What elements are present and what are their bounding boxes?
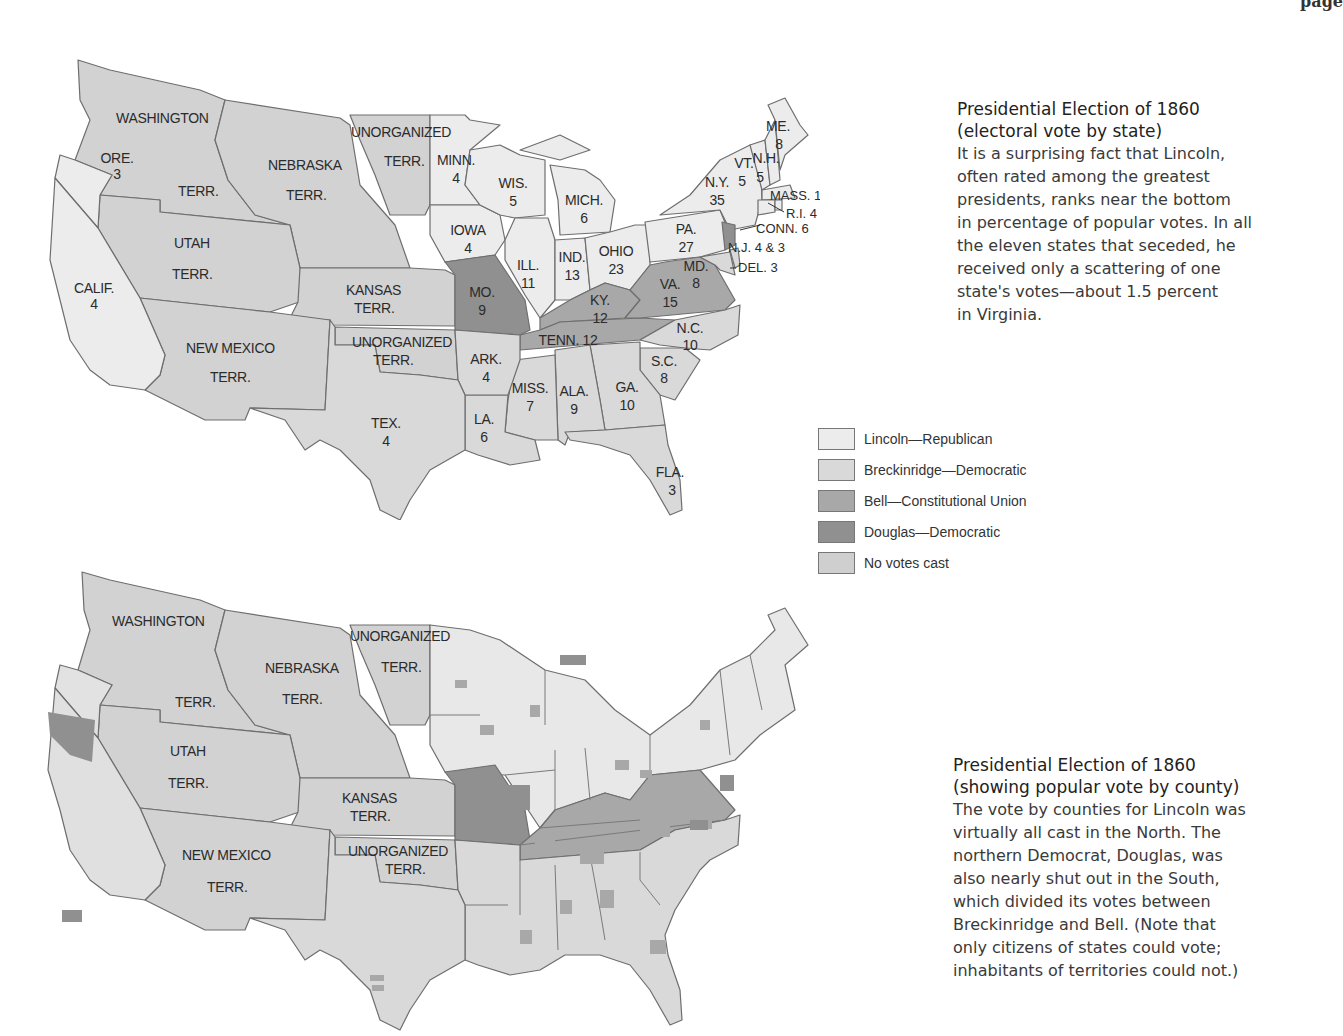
caption-subtitle: (showing popular vote by county): [953, 776, 1343, 798]
label-new-mexico: NEW MEXICO: [182, 847, 271, 863]
county-vote-map: WASHINGTON TERR. NEBRASKA TERR. UNORGANI…: [0, 520, 820, 1036]
label-nebraska-terr: TERR.: [286, 187, 327, 203]
label-ala: ALA.: [559, 383, 588, 399]
label-new-mexico: NEW MEXICO: [186, 340, 275, 356]
legend-item-breckinridge: Breckinridge—Democratic: [818, 454, 1027, 485]
votes-wis: 5: [509, 193, 517, 209]
caption-line: which divided its votes between: [953, 890, 1343, 913]
label-utah: UTAH: [174, 235, 210, 251]
label-va: VA.: [660, 276, 681, 292]
votes-ind: 13: [565, 267, 580, 283]
legend-swatch: [818, 552, 855, 574]
legend-item-lincoln: Lincoln—Republican: [818, 423, 1027, 454]
label-unorganized-north-terr: TERR.: [381, 659, 422, 675]
caption-line: only citizens of states could vote;: [953, 936, 1343, 959]
new-mexico-territory: [140, 808, 330, 930]
label-new-mexico-terr: TERR.: [210, 369, 251, 385]
legend-swatch: [818, 490, 855, 512]
label-mo: MO.: [469, 284, 495, 300]
label-unorganized-north-terr: TERR.: [384, 153, 425, 169]
label-conn: CONN. 6: [756, 221, 809, 236]
label-ohio: OHIO: [599, 243, 634, 259]
label-unorganized-south: UNORGANIZED: [352, 334, 452, 350]
legend-item-bell: Bell—Constitutional Union: [818, 485, 1027, 516]
label-del: DEL. 3: [738, 260, 778, 275]
legend-swatch: [818, 428, 855, 450]
label-nebraska: NEBRASKA: [268, 157, 343, 173]
votes-iowa: 4: [464, 240, 472, 256]
caption-line: virtually all cast in the North. The: [953, 821, 1343, 844]
label-new-mexico-terr: TERR.: [207, 879, 248, 895]
label-washington-terr: TERR.: [178, 183, 219, 199]
caption-line: Breckinridge and Bell. (Note that: [953, 913, 1343, 936]
label-utah-terr: TERR.: [172, 266, 213, 282]
caption-line: state's votes—about 1.5 percent: [957, 280, 1343, 303]
label-utah: UTAH: [170, 743, 206, 759]
label-wis: WIS.: [498, 175, 527, 191]
votes-me: 8: [775, 136, 783, 152]
votes-md: 8: [692, 275, 700, 291]
caption-subtitle: (electoral vote by state): [957, 120, 1343, 142]
label-pa: PA.: [676, 221, 697, 237]
label-mass: MASS. 13: [770, 188, 820, 203]
label-md: MD.: [684, 258, 709, 274]
label-ga: GA.: [615, 379, 638, 395]
votes-miss: 7: [526, 398, 534, 414]
label-ill: ILL.: [517, 257, 539, 273]
votes-ill: 11: [521, 275, 535, 291]
votes-sc: 8: [660, 370, 668, 386]
label-fla: FLA.: [656, 464, 684, 480]
label-unorganized-south-terr: TERR.: [373, 352, 414, 368]
label-utah-terr: TERR.: [168, 775, 209, 791]
label-washington: WASHINGTON: [112, 613, 205, 629]
label-la: LA.: [474, 411, 494, 427]
caption-line: the eleven states that seceded, he: [957, 234, 1343, 257]
votes-nc: 10: [683, 337, 698, 353]
votes-fla: 3: [668, 482, 676, 498]
label-calif: CALIF.: [74, 280, 114, 296]
votes-vt: 5: [738, 173, 746, 189]
caption-line: presidents, ranks near the bottom: [957, 188, 1343, 211]
votes-ohio: 23: [609, 261, 624, 277]
label-unorganized-south: UNORGANIZED: [348, 843, 448, 859]
legend-label: Breckinridge—Democratic: [864, 462, 1027, 478]
label-washington-terr: TERR.: [175, 694, 216, 710]
votes-ore: 3: [113, 166, 121, 182]
label-vt: VT.: [734, 155, 753, 171]
caption-line: also nearly shut out in the South,: [953, 867, 1343, 890]
label-kansas-terr: TERR.: [350, 808, 391, 824]
votes-tex: 4: [382, 433, 390, 449]
votes-mo: 9: [478, 302, 486, 318]
label-unorganized-north: UNORGANIZED: [350, 628, 450, 644]
legend-swatch: [818, 459, 855, 481]
caption-body: The vote by counties for Lincoln was vir…: [953, 798, 1343, 982]
caption-title: Presidential Election of 1860: [953, 754, 1343, 776]
legend-label: Lincoln—Republican: [864, 431, 992, 447]
label-mich: MICH.: [565, 192, 603, 208]
votes-mich: 6: [580, 210, 588, 226]
label-ny: N.Y.: [705, 174, 729, 190]
votes-ky: 12: [593, 310, 608, 326]
votes-minn: 4: [452, 170, 460, 186]
label-ore: ORE.: [100, 150, 133, 166]
label-tenn: TENN. 12: [538, 332, 598, 348]
kansas-territory: [290, 778, 455, 836]
label-ind: IND.: [559, 249, 586, 265]
label-minn: MINN.: [437, 152, 475, 168]
label-ky: KY.: [590, 292, 610, 308]
legend-label: Douglas—Democratic: [864, 524, 1000, 540]
legend-label: No votes cast: [864, 555, 949, 571]
electoral-map-caption: Presidential Election of 1860 (electoral…: [957, 98, 1343, 326]
votes-ny: 35: [710, 192, 725, 208]
label-unorganized-north: UNORGANIZED: [351, 124, 451, 140]
electoral-vote-map: WASHINGTON TERR. NEBRASKA TERR. UNORGANI…: [0, 0, 820, 520]
page-header-fragment: page: [1300, 0, 1343, 11]
label-sc: S.C.: [651, 353, 677, 369]
label-ark: ARK.: [470, 351, 501, 367]
caption-line: received only a scattering of one: [957, 257, 1343, 280]
votes-ga: 10: [620, 397, 635, 413]
label-nebraska-terr: TERR.: [282, 691, 323, 707]
legend-swatch: [818, 521, 855, 543]
votes-va: 15: [663, 294, 678, 310]
caption-line: The vote by counties for Lincoln was: [953, 798, 1343, 821]
